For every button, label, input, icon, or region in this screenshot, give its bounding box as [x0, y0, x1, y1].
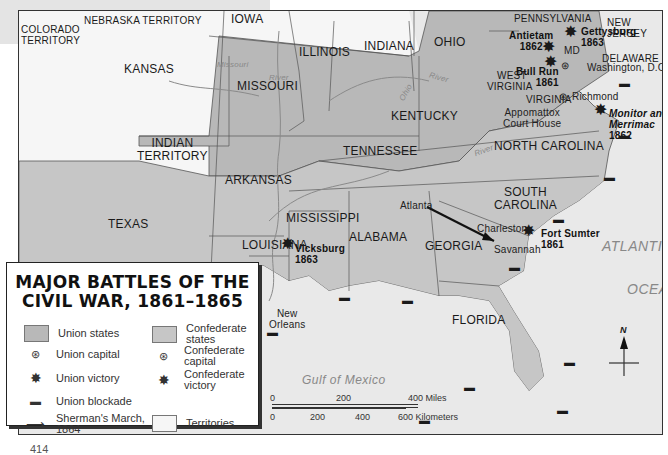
map-legend: MAJOR BATTLES OF THECIVIL WAR, 1861–1865…	[6, 262, 259, 426]
label-line: 1861	[541, 239, 564, 250]
union-blockade-icon: ▬	[619, 129, 630, 142]
confederate-victory-icon: ✸	[522, 224, 535, 237]
label-line: 1864	[56, 423, 80, 435]
legend-confederate-capital: ⊛Confederatecapital	[152, 345, 245, 367]
title-line: MAJOR BATTLES OF THE	[15, 272, 249, 292]
shermans-march-arrow-icon: ⟶	[24, 419, 47, 430]
territories-swatch	[152, 415, 177, 432]
confederate-states-swatch	[152, 326, 177, 343]
label-mississippi: MISSISSIPPI	[286, 212, 360, 225]
label-line: Vicksburg	[295, 243, 345, 254]
legend-label: Territories	[186, 418, 234, 429]
label-line: Fort Sumter	[541, 228, 600, 239]
label-savannah: Savannah	[494, 244, 541, 255]
union-blockade-icon: ▬	[24, 396, 47, 407]
legend-label: Union states	[58, 328, 119, 339]
legend-label: Confederatevictory	[184, 369, 245, 391]
scale-tick: 200	[310, 412, 325, 422]
union-victory-icon: ✸	[542, 40, 555, 53]
legend-title: MAJOR BATTLES OF THECIVIL WAR, 1861–1865	[7, 273, 258, 311]
label-south-carolina: SOUTHCAROLINA	[494, 186, 557, 212]
legend-territories: Territories	[152, 415, 234, 432]
label-alabama: ALABAMA	[349, 231, 407, 244]
label-line: Court House	[503, 118, 561, 129]
label-colorado-territory: COLORADOTERRITORY	[21, 24, 80, 46]
label-iowa: IOWA	[231, 13, 263, 26]
battle-gettysburg: Gettysburg1863	[581, 26, 636, 48]
union-capital-icon: ⊛	[561, 59, 569, 72]
union-victory-icon: ✸	[24, 373, 47, 384]
scale-bar: 0 200 400 Miles 0 200 400 600 Kilometers	[270, 393, 460, 423]
union-states-swatch	[24, 325, 49, 342]
label-indiana: INDIANA	[364, 40, 414, 53]
label-ocean: OCEAN	[627, 283, 663, 296]
scale-tick: 600 Kilometers	[398, 412, 458, 422]
union-blockade-icon: ▬	[619, 77, 630, 90]
battle-monitor-merrimac: Monitor andMerrimac1862	[609, 108, 663, 141]
compass-north-label: N	[620, 324, 627, 337]
battle-vicksburg: Vicksburg1863	[295, 243, 345, 265]
label-line: 1862	[520, 41, 543, 52]
label-florida: FLORIDA	[452, 314, 505, 327]
battle-fort-sumter: Fort Sumter1861	[541, 228, 600, 250]
label-gulf-of-mexico: Gulf of Mexico	[302, 374, 386, 387]
label-line: New	[277, 308, 298, 319]
scale-tick: 0	[270, 393, 275, 403]
label-atlanta: Atlanta	[400, 200, 433, 211]
scale-tick: 0	[270, 412, 275, 422]
label-missouri-river: Missouri	[217, 58, 248, 71]
union-blockade-icon: ▬	[553, 213, 564, 226]
union-blockade-icon: ▬	[604, 171, 615, 184]
label-kentucky: KENTUCKY	[391, 110, 458, 123]
union-blockade-icon: ▬	[339, 291, 350, 304]
legend-shermans-march: ⟶Sherman's March,1864	[24, 413, 145, 435]
legend-union-victory: ✸Union victory	[24, 373, 120, 384]
label-line: INDIAN	[151, 136, 193, 150]
label-line: SOUTH	[504, 185, 547, 199]
label-line: 1863	[581, 37, 604, 48]
union-blockade-icon: ▬	[267, 326, 278, 339]
label-charleston: Charleston	[477, 223, 527, 234]
label-line: TERRITORY	[21, 35, 80, 46]
legend-label: Sherman's March,1864	[56, 413, 145, 435]
label-line: 1863	[295, 254, 318, 265]
label-kansas: KANSAS	[124, 63, 174, 76]
title-line: CIVIL WAR, 1861–1865	[22, 291, 243, 311]
label-line: Gettysburg	[581, 26, 636, 37]
label-pennsylvania: PENNSYLVANIA	[514, 13, 592, 24]
label-appomattox: AppomattoxCourt House	[503, 107, 561, 129]
label-line: Merrimac	[609, 119, 655, 130]
legend-label: Union blockade	[56, 396, 132, 407]
label-line: COLORADO	[21, 24, 80, 35]
label-illinois: ILLINOIS	[299, 46, 350, 59]
label-washington-dc: Washington, D.C.	[587, 62, 663, 73]
legend-label: Union capital	[56, 349, 120, 360]
label-line: CAROLINA	[494, 198, 557, 212]
label-tennessee: TENNESSEE	[343, 145, 418, 158]
label-line: TERRITORY	[137, 149, 208, 163]
label-arkansas: ARKANSAS	[225, 174, 292, 187]
scale-tick: 400	[355, 412, 370, 422]
union-blockade-icon: ▬	[557, 404, 568, 417]
scale-tick: 200	[336, 393, 351, 403]
label-nebraska-territory: NEBRASKA TERRITORY	[84, 15, 202, 26]
label-md: MD	[564, 45, 580, 56]
confederate-victory-icon: ✸	[152, 375, 175, 386]
union-blockade-icon: ▬	[464, 381, 475, 394]
label-line: Monitor and	[609, 108, 663, 119]
confederate-victory-icon: ✸	[544, 55, 557, 68]
page-number: 414	[30, 443, 48, 455]
label-ohio: OHIO	[434, 36, 465, 49]
confederate-capital-icon: ⊛	[559, 90, 567, 103]
legend-union-capital: ⊛Union capital	[24, 349, 120, 360]
label-north-carolina: NORTH CAROLINA	[494, 140, 604, 153]
scale-tick: 400 Miles	[408, 393, 447, 403]
label-line: capital	[184, 355, 216, 367]
label-line: victory	[184, 379, 216, 391]
legend-union-blockade: ▬Union blockade	[24, 396, 132, 407]
legend-confederate-victory: ✸Confederatevictory	[152, 369, 245, 391]
label-missouri-river-word: River	[269, 71, 289, 84]
confederate-victory-icon: ✸	[594, 103, 607, 116]
legend-label: Confederatestates	[186, 323, 247, 345]
label-line: Appomattox	[504, 107, 559, 118]
